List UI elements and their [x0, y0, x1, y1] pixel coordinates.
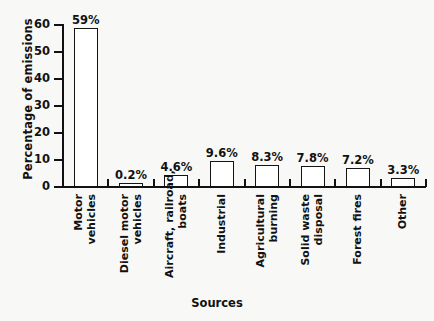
x-tick-mark	[244, 179, 246, 187]
y-tick-label: 50	[14, 46, 50, 57]
bar	[210, 161, 234, 187]
x-category-label: Forest fires	[352, 194, 365, 278]
bar	[301, 166, 325, 187]
y-tick-label: 30	[14, 100, 50, 111]
x-tick-mark	[289, 179, 291, 187]
x-tick-mark	[425, 179, 427, 187]
x-category-label: Aircraft, railroad, boats	[164, 194, 189, 278]
x-category-label: Other	[397, 194, 410, 278]
y-tick-label-wrap: 20	[12, 127, 50, 139]
y-tick-label: 40	[14, 73, 50, 84]
y-tick-label-wrap: 10	[12, 154, 50, 166]
x-category-label: Diesel motor vehicles	[119, 194, 144, 278]
y-tick-label-wrap: 0	[12, 181, 50, 193]
y-tick-label: 60	[14, 19, 50, 30]
x-tick-mark	[334, 179, 336, 187]
bar-value-label: 3.3%	[373, 163, 433, 177]
bar	[391, 178, 415, 187]
x-category-label: Solid waste disposal	[300, 194, 325, 278]
y-tick-label-wrap: 60	[12, 19, 50, 31]
y-tick-mark	[54, 51, 63, 53]
bar	[346, 168, 370, 187]
bar	[74, 28, 98, 187]
x-tick-mark	[380, 179, 382, 187]
x-category-label: Industrial	[216, 194, 229, 278]
bar	[255, 165, 279, 187]
bar-value-label: 59%	[56, 13, 116, 27]
x-axis-title: Sources	[0, 296, 434, 310]
x-category-label: Motor vehicles	[73, 194, 98, 278]
x-tick-mark	[62, 179, 64, 187]
y-tick-label: 20	[14, 127, 50, 138]
x-tick-mark	[198, 179, 200, 187]
bar	[119, 183, 143, 187]
bar-value-label: 4.6%	[146, 160, 206, 174]
bar-chart: Percentage of emissions 0102030405060 59…	[0, 0, 434, 321]
y-tick-mark	[54, 105, 63, 107]
y-tick-label-wrap: 50	[12, 46, 50, 58]
y-tick-label: 10	[14, 154, 50, 165]
y-tick-mark	[54, 132, 63, 134]
x-category-label: Agricultural burning	[255, 194, 280, 278]
y-tick-label-wrap: 30	[12, 100, 50, 112]
y-tick-mark	[54, 78, 63, 80]
y-tick-label-wrap: 40	[12, 73, 50, 85]
y-tick-label: 0	[14, 181, 50, 192]
y-tick-mark	[54, 159, 63, 161]
